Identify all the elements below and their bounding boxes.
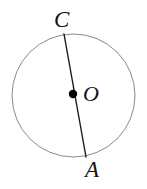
point-label-a: A — [85, 158, 99, 181]
figure-canvas — [0, 0, 147, 189]
point-label-o: O — [83, 83, 99, 105]
point-label-c: C — [54, 8, 69, 31]
geometry-figure: C O A — [0, 0, 147, 189]
center-point-dot — [69, 90, 77, 98]
